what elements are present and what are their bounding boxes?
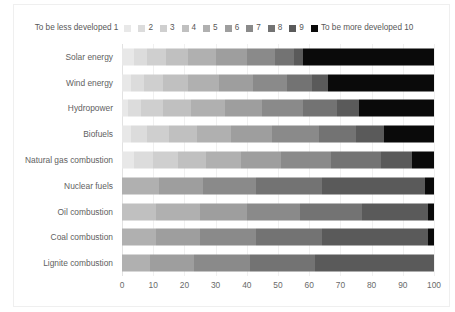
bar-segment[interactable] [153, 152, 178, 169]
category-label: Nuclear fuels [14, 173, 118, 199]
legend-swatch-icon [203, 25, 210, 32]
bar-segment[interactable] [134, 152, 153, 169]
bar-segment[interactable] [128, 100, 140, 117]
bar-segment[interactable] [122, 255, 150, 272]
bar-segment[interactable] [131, 74, 143, 91]
legend-entry[interactable]: 2 [138, 23, 153, 33]
bar-segment[interactable] [206, 152, 240, 169]
bar-segment[interactable] [241, 152, 282, 169]
bar-segment[interactable] [191, 100, 225, 117]
bar-segment[interactable] [303, 100, 337, 117]
bar-segment[interactable] [428, 229, 434, 246]
bar-track [122, 152, 434, 169]
bar-segment[interactable] [122, 126, 131, 143]
bar-segment[interactable] [328, 74, 434, 91]
bar-segment[interactable] [362, 203, 428, 220]
bar-segment[interactable] [225, 100, 262, 117]
bar-segment[interactable] [200, 203, 247, 220]
legend-label: 3 [170, 23, 175, 33]
category-label: Natural gas combustion [14, 147, 118, 173]
bar-segment[interactable] [197, 126, 231, 143]
bar-segment[interactable] [315, 255, 434, 272]
bar-segment[interactable] [312, 74, 328, 91]
bar-segment[interactable] [188, 48, 216, 65]
bar-segment[interactable] [144, 74, 163, 91]
category-label: Coal combustion [14, 224, 118, 250]
bar-segment[interactable] [141, 100, 163, 117]
bar-segment[interactable] [147, 48, 166, 65]
bar-segment[interactable] [247, 203, 300, 220]
bar-segment[interactable] [131, 126, 147, 143]
bar-segment[interactable] [163, 74, 188, 91]
bar-segment[interactable] [122, 48, 134, 65]
bar-segment[interactable] [272, 126, 319, 143]
bar-segment[interactable] [250, 255, 316, 272]
bar-segment[interactable] [337, 100, 359, 117]
x-tick-label: 70 [336, 280, 345, 290]
bar-segment[interactable] [216, 48, 247, 65]
bar-segment[interactable] [169, 126, 197, 143]
legend-entry[interactable]: 9 [289, 23, 304, 33]
bar-segment[interactable] [200, 229, 256, 246]
legend-entry[interactable]: 5 [203, 23, 218, 33]
category-label: Solar energy [14, 44, 118, 70]
bar-segment[interactable] [247, 48, 275, 65]
legend-entry[interactable]: 4 [182, 23, 197, 33]
bar-segment[interactable] [412, 152, 434, 169]
bar-segment[interactable] [231, 126, 272, 143]
bar-segment[interactable] [163, 100, 191, 117]
bar-segment[interactable] [156, 229, 200, 246]
bar-segment[interactable] [356, 126, 384, 143]
legend-entry[interactable]: 6 [225, 23, 240, 33]
bar-segment[interactable] [275, 48, 294, 65]
bar-segment[interactable] [303, 48, 434, 65]
x-tick-label: 80 [367, 280, 376, 290]
bar-segment[interactable] [134, 48, 146, 65]
bar-segment[interactable] [331, 152, 381, 169]
bar-segment[interactable] [166, 48, 188, 65]
bar-segment[interactable] [188, 74, 219, 91]
legend-entry[interactable]: 3 [160, 23, 175, 33]
bar-segment[interactable] [359, 100, 434, 117]
bar-segment[interactable] [122, 74, 131, 91]
bar-segment[interactable] [428, 203, 434, 220]
bar-segment[interactable] [203, 177, 256, 194]
bar-segment[interactable] [322, 177, 425, 194]
legend-entry[interactable]: 7 [246, 23, 261, 33]
bar-segment[interactable] [294, 48, 303, 65]
bar-segment[interactable] [322, 229, 428, 246]
bar-track [122, 126, 434, 143]
bar-segment[interactable] [253, 74, 287, 91]
bar-segment[interactable] [122, 229, 156, 246]
bar-segment[interactable] [256, 229, 322, 246]
legend-entry[interactable]: To be less developed 1 [35, 23, 132, 33]
category-label: Biofuels [14, 121, 118, 147]
bar-segment[interactable] [300, 203, 362, 220]
bar-segment[interactable] [262, 100, 303, 117]
bar-segment[interactable] [147, 126, 169, 143]
bar-segment[interactable] [122, 177, 159, 194]
bar-segment[interactable] [156, 203, 200, 220]
bar-segment[interactable] [122, 203, 156, 220]
x-tick-label: 90 [398, 280, 407, 290]
bar-segment[interactable] [319, 126, 356, 143]
bar-segment[interactable] [287, 74, 312, 91]
bar-segment[interactable] [122, 152, 134, 169]
bar-segment[interactable] [384, 126, 434, 143]
bar-segment[interactable] [256, 177, 322, 194]
bar-segment[interactable] [194, 255, 250, 272]
x-tick-label: 40 [242, 280, 251, 290]
bar-segment[interactable] [219, 74, 253, 91]
bar-track [122, 255, 434, 272]
category-label: Lignite combustion [14, 250, 118, 276]
legend-entry[interactable]: 8 [268, 23, 283, 33]
bar-segment[interactable] [381, 152, 412, 169]
bar-segment[interactable] [159, 177, 203, 194]
legend-label: 5 [213, 23, 218, 33]
bar-segment[interactable] [425, 177, 434, 194]
bar-segment[interactable] [178, 152, 206, 169]
bar-segment[interactable] [150, 255, 194, 272]
chart-container: To be less developed 123456789To be more… [0, 0, 455, 312]
legend-entry[interactable]: To be more developed 10 [311, 23, 413, 33]
bar-segment[interactable] [281, 152, 331, 169]
